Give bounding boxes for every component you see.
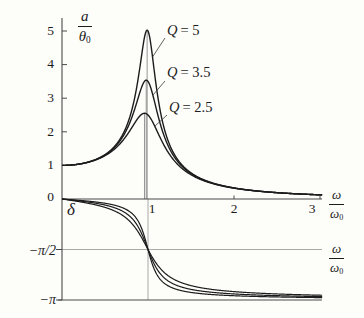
annotation-q-2-5: Q= 2.5 [169, 99, 212, 116]
frequency-axis-numerator: ω [329, 241, 344, 259]
annotation-q-3-5: Q= 3.5 [167, 64, 210, 81]
y-tick-label-4: 4 [34, 57, 54, 71]
y-tick-label-5: 5 [34, 24, 54, 38]
phase-tick-label-pi: −π [12, 292, 56, 307]
phase-curve-q2.5 [62, 199, 322, 295]
y-tick-label-1: 1 [34, 158, 54, 172]
resonance-chart-canvas [0, 0, 364, 318]
x-tick-label-2: 2 [226, 202, 242, 216]
annotation-q-5: Q= 5 [167, 22, 200, 39]
phase-curve-q3.5 [62, 199, 322, 297]
resonance-figure: a θ0 5 4 3 2 1 0 1 2 3 ω ω0 ω ω0 δ −π/2 … [0, 0, 364, 318]
phase-curve-q5 [62, 199, 322, 298]
q-label-leader [153, 38, 166, 57]
frequency-axis-denominator: ω0 [330, 259, 343, 276]
q-label-leader [153, 81, 165, 95]
amplitude-axis-label: a θ0 [78, 8, 92, 45]
frequency-axis-numerator: ω [329, 187, 344, 205]
frequency-axis-denominator: ω0 [330, 205, 343, 222]
y-tick-label-3: 3 [34, 91, 54, 105]
x-tick-label-3: 3 [304, 202, 320, 216]
amplitude-axis-denominator: θ0 [79, 27, 91, 45]
phase-tick-label-half-pi: −π/2 [12, 243, 56, 258]
y-tick-label-0: 0 [34, 190, 54, 204]
amplitude-axis-numerator: a [78, 8, 92, 27]
phase-axis-label: δ [67, 201, 75, 218]
frequency-axis-label-top: ω ω0 [329, 187, 344, 222]
frequency-axis-label-bottom: ω ω0 [329, 241, 344, 276]
amplitude-curve-q2.5 [62, 113, 322, 195]
amplitude-curve-q3.5 [62, 80, 322, 195]
x-tick-label-1: 1 [144, 202, 160, 216]
y-tick-label-2: 2 [34, 125, 54, 139]
